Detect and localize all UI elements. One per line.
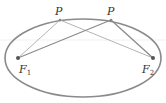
point-p2 — [110, 19, 113, 22]
label-p2: P — [106, 5, 115, 18]
label-p1: P — [54, 5, 63, 18]
point-p1 — [59, 19, 62, 22]
focus-f1-dot — [16, 56, 20, 60]
label-f2-sub: 2 — [150, 69, 154, 77]
ellipse-foci-diagram: P P F1 F2 — [0, 0, 166, 103]
segment-p2-f1 — [18, 20, 111, 58]
segment-p1-f2 — [60, 20, 153, 58]
label-f1-sub: 1 — [27, 69, 31, 77]
focus-f2-dot — [151, 56, 155, 60]
label-f2: F2 — [141, 63, 154, 77]
label-f1: F1 — [18, 63, 31, 77]
ellipse — [5, 19, 161, 97]
label-f1-main: F — [18, 63, 27, 76]
label-f2-main: F — [141, 63, 150, 76]
segment-p2-f2 — [111, 20, 153, 58]
